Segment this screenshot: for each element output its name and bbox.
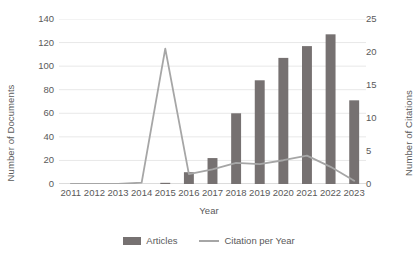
- plot-area: [59, 19, 366, 184]
- x-tick-2017: 2017: [201, 187, 225, 201]
- x-axis-title: Year: [0, 205, 418, 216]
- bar-2020: [278, 58, 288, 184]
- x-tick-2021: 2021: [295, 187, 319, 201]
- y-left-tick-120: 120: [20, 37, 54, 48]
- y-axis-right-ticks: 0510152025: [366, 0, 400, 266]
- bar-swatch-icon: [123, 237, 141, 245]
- x-tick-2019: 2019: [248, 187, 272, 201]
- bar-2022: [326, 34, 336, 184]
- x-tick-2020: 2020: [271, 187, 295, 201]
- x-tick-2014: 2014: [130, 187, 154, 201]
- y-left-tick-40: 40: [20, 131, 54, 142]
- y-right-tick-5: 5: [366, 145, 400, 156]
- y-axis-left-title: Number of Documents: [5, 53, 16, 213]
- bar-2023: [349, 100, 359, 184]
- legend-label-articles: Articles: [146, 235, 177, 246]
- legend-item-articles[interactable]: Articles: [123, 235, 177, 246]
- bar-2018: [231, 113, 241, 184]
- chart-svg: [59, 19, 366, 184]
- x-tick-2023: 2023: [342, 187, 366, 201]
- y-left-tick-60: 60: [20, 107, 54, 118]
- y-right-tick-20: 20: [366, 46, 400, 57]
- x-tick-2015: 2015: [153, 187, 177, 201]
- y-axis-right-title: Number of Citations: [403, 53, 414, 213]
- y-axis-left-ticks: 020406080100120140: [20, 0, 54, 266]
- y-left-tick-20: 20: [20, 154, 54, 165]
- x-tick-2018: 2018: [224, 187, 248, 201]
- legend-item-citation-per-year[interactable]: Citation per Year: [199, 235, 294, 246]
- y-right-tick-0: 0: [366, 178, 400, 189]
- y-left-tick-80: 80: [20, 84, 54, 95]
- y-left-tick-140: 140: [20, 13, 54, 24]
- x-tick-2022: 2022: [319, 187, 343, 201]
- y-left-tick-100: 100: [20, 60, 54, 71]
- y-left-tick-0: 0: [20, 178, 54, 189]
- y-right-tick-25: 25: [366, 13, 400, 24]
- x-tick-2016: 2016: [177, 187, 201, 201]
- bar-2015: [160, 183, 170, 184]
- x-tick-2012: 2012: [83, 187, 107, 201]
- x-tick-2011: 2011: [59, 187, 83, 201]
- chart-legend: Articles Citation per Year: [0, 235, 418, 246]
- bar-2019: [255, 80, 265, 184]
- y-right-tick-15: 15: [366, 79, 400, 90]
- y-right-tick-10: 10: [366, 112, 400, 123]
- x-axis-ticks: 2011201220132014201520162017201820192020…: [59, 187, 366, 201]
- x-tick-2013: 2013: [106, 187, 130, 201]
- line-swatch-icon: [199, 240, 219, 242]
- chart-container: Number of Documents Number of Citations …: [0, 0, 418, 266]
- bar-2021: [302, 46, 312, 184]
- legend-label-citation-per-year: Citation per Year: [224, 235, 294, 246]
